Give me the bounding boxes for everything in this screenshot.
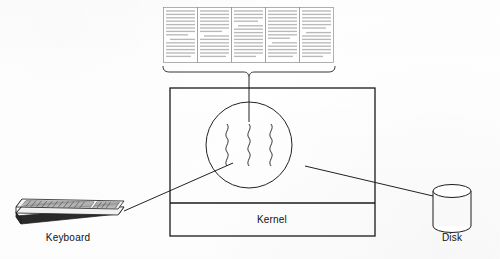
user-text-block: [164, 8, 334, 63]
keyboard-main-keys: [21, 201, 94, 208]
text-column-2: [198, 8, 232, 63]
kernel-label: Kernel: [257, 214, 287, 225]
keyboard-icon: Keyboard: [16, 199, 124, 243]
disk-connector: [305, 166, 433, 196]
text-column-3: [232, 8, 266, 63]
brace-connector: [163, 66, 335, 122]
keyboard-numeric-keypad: [93, 202, 120, 209]
disk-label: Disk: [442, 232, 463, 243]
disk-cylinder-icon: Disk: [433, 185, 471, 244]
keyboard-connector: [124, 163, 233, 211]
text-column-4: [266, 8, 300, 63]
kernel-box: Kernel: [170, 88, 375, 236]
system-diagram: Kernel: [0, 0, 500, 259]
text-column-5: [300, 8, 334, 63]
text-column-1: [164, 8, 198, 63]
keyboard-label: Keyboard: [46, 232, 90, 243]
figure-canvas: Kernel: [0, 0, 500, 259]
process-squiggles: [226, 124, 272, 166]
